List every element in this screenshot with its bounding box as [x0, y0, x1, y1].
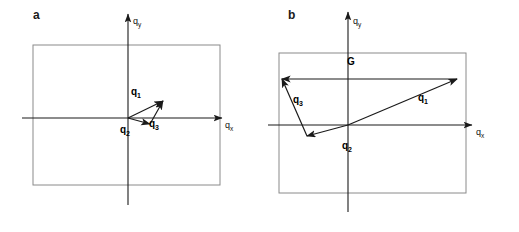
panel-b-x-axis-label: qx: [476, 127, 484, 139]
panel-b-box: [279, 53, 466, 193]
panel-b: b qx qy G: [260, 0, 519, 232]
panel-b-label-G: G: [347, 56, 355, 69]
panel-b-vector-q1: [348, 79, 457, 125]
panel-a: a qx qy q1: [0, 0, 260, 232]
panel-b-label-q3: q3: [293, 94, 303, 107]
panel-b-label-q2: q2: [342, 140, 352, 153]
panel-a-label-q2: q2: [120, 124, 130, 137]
panel-b-y-axis-label: qy: [353, 16, 361, 28]
panel-a-graphics: [0, 0, 260, 232]
panel-b-vector-q2: [307, 125, 348, 136]
figure-container: a qx qy q1: [0, 0, 519, 232]
panel-b-graphics: [260, 0, 519, 232]
panel-a-y-axis-label: qy: [133, 16, 141, 28]
panel-a-vector-q2: [128, 118, 150, 124]
panel-a-box: [33, 45, 220, 185]
panel-a-x-axis-label: qx: [225, 120, 233, 132]
panel-a-label-q3: q3: [149, 118, 159, 131]
panel-b-vector-q3: [282, 79, 307, 136]
panel-b-label-q1: q1: [418, 92, 428, 105]
panel-a-label-q1: q1: [131, 86, 141, 99]
